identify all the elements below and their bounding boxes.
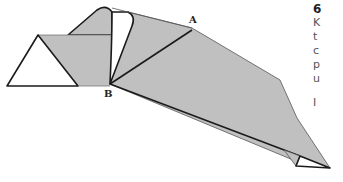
main-body <box>110 12 330 168</box>
instruction-text: 6 K t c p u I <box>313 2 343 110</box>
origami-fold-diagram <box>0 0 343 182</box>
back-flap <box>68 7 112 35</box>
instruction-line: p <box>313 58 343 72</box>
instruction-line: u <box>313 72 343 86</box>
instruction-line: c <box>313 44 343 58</box>
instruction-line: I <box>313 96 343 110</box>
instruction-line: K <box>313 16 343 30</box>
point-label-b: B <box>104 88 112 99</box>
step-number: 6 <box>313 2 343 16</box>
point-label-a: A <box>189 14 197 25</box>
instruction-line: t <box>313 30 343 44</box>
